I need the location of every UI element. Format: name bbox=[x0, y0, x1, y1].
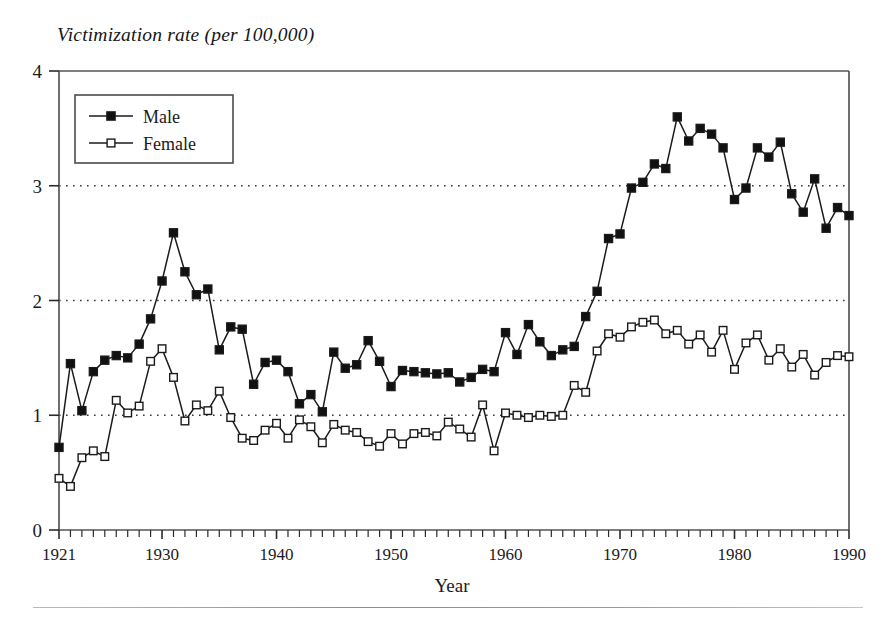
data-point-female-1951 bbox=[399, 440, 407, 448]
data-point-male-1935 bbox=[215, 346, 223, 354]
data-point-male-1978 bbox=[708, 130, 716, 138]
data-point-female-1946 bbox=[341, 426, 349, 434]
data-point-male-1987 bbox=[811, 175, 819, 183]
data-point-male-1941 bbox=[284, 368, 292, 376]
data-point-male-1921 bbox=[55, 443, 63, 451]
data-point-male-1925 bbox=[101, 356, 109, 364]
data-point-male-1961 bbox=[513, 350, 521, 358]
data-point-female-1938 bbox=[250, 437, 258, 445]
figure-container: Victimization rate (per 100,000) 1921193… bbox=[0, 0, 895, 624]
data-point-female-1949 bbox=[376, 442, 384, 450]
data-point-female-1964 bbox=[548, 413, 556, 421]
data-point-male-1957 bbox=[467, 373, 475, 381]
data-point-male-1969 bbox=[604, 234, 612, 242]
y-tick-label-2: 2 bbox=[33, 291, 43, 312]
data-point-male-1928 bbox=[135, 340, 143, 348]
data-point-male-1953 bbox=[421, 369, 429, 377]
data-point-female-1954 bbox=[433, 432, 441, 440]
legend-marker-male bbox=[107, 112, 115, 120]
data-point-male-1976 bbox=[685, 137, 693, 145]
x-axis-title: Year bbox=[434, 575, 470, 596]
data-point-female-1940 bbox=[273, 419, 281, 427]
data-point-female-1989 bbox=[834, 352, 842, 360]
y-axis-tick-labels: 01234 bbox=[33, 61, 43, 541]
data-point-female-1929 bbox=[147, 358, 155, 366]
data-point-male-1984 bbox=[776, 138, 784, 146]
data-point-male-1926 bbox=[112, 351, 120, 359]
y-axis-ticks bbox=[49, 71, 59, 530]
data-point-female-1936 bbox=[227, 414, 235, 422]
data-point-female-1980 bbox=[731, 366, 739, 374]
data-point-female-1957 bbox=[467, 433, 475, 441]
data-point-female-1950 bbox=[387, 430, 395, 438]
data-point-male-1974 bbox=[662, 164, 670, 172]
data-point-male-1986 bbox=[799, 208, 807, 216]
data-point-male-1927 bbox=[124, 354, 132, 362]
data-point-male-1923 bbox=[78, 407, 86, 415]
data-point-female-1953 bbox=[422, 429, 430, 437]
data-point-male-1956 bbox=[456, 378, 464, 386]
data-point-male-1979 bbox=[719, 144, 727, 152]
data-point-female-1958 bbox=[479, 401, 487, 409]
data-point-male-1946 bbox=[341, 364, 349, 372]
data-point-male-1934 bbox=[204, 285, 212, 293]
data-point-male-1959 bbox=[490, 368, 498, 376]
data-point-female-1945 bbox=[330, 421, 338, 429]
data-point-female-1925 bbox=[101, 453, 109, 461]
data-point-female-1948 bbox=[364, 438, 372, 446]
data-point-female-1976 bbox=[685, 340, 693, 348]
data-point-male-1944 bbox=[318, 408, 326, 416]
legend-marker-female bbox=[107, 139, 115, 147]
data-point-female-1975 bbox=[673, 327, 681, 335]
x-tick-label-1950: 1950 bbox=[374, 545, 408, 564]
data-point-female-1963 bbox=[536, 411, 544, 419]
data-point-female-1952 bbox=[410, 430, 418, 438]
data-point-male-1980 bbox=[730, 195, 738, 203]
legend: MaleFemale bbox=[75, 95, 233, 163]
series-line-male bbox=[59, 117, 849, 447]
victimization-rate-line-chart: 19211930194019501960197019801990 01234 Y… bbox=[0, 0, 895, 624]
data-point-female-1966 bbox=[570, 382, 578, 390]
data-point-male-1942 bbox=[295, 400, 303, 408]
data-point-male-1970 bbox=[616, 230, 624, 238]
data-point-female-1928 bbox=[135, 402, 143, 410]
data-point-female-1977 bbox=[696, 331, 704, 339]
x-tick-label-1940: 1940 bbox=[260, 545, 294, 564]
legend-label-male: Male bbox=[143, 107, 180, 127]
data-point-female-1931 bbox=[170, 374, 178, 382]
data-point-female-1965 bbox=[559, 411, 567, 419]
data-point-male-1933 bbox=[192, 291, 200, 299]
data-point-female-1987 bbox=[811, 371, 819, 379]
data-point-male-1952 bbox=[410, 368, 418, 376]
data-point-female-1979 bbox=[719, 327, 727, 335]
y-tick-label-1: 1 bbox=[33, 405, 43, 426]
data-point-male-1988 bbox=[822, 224, 830, 232]
data-point-male-1981 bbox=[742, 184, 750, 192]
series-female bbox=[55, 316, 853, 490]
data-point-female-1983 bbox=[765, 356, 773, 364]
data-point-male-1950 bbox=[387, 382, 395, 390]
data-point-female-1969 bbox=[605, 330, 613, 338]
data-point-male-1929 bbox=[146, 315, 154, 323]
data-point-female-1922 bbox=[67, 483, 75, 491]
data-point-female-1947 bbox=[353, 429, 361, 437]
y-tick-label-3: 3 bbox=[33, 176, 43, 197]
data-point-male-1973 bbox=[650, 160, 658, 168]
data-point-female-1924 bbox=[90, 447, 98, 455]
data-point-male-1960 bbox=[501, 329, 509, 337]
data-point-male-1924 bbox=[89, 368, 97, 376]
data-point-female-1971 bbox=[628, 323, 636, 331]
x-axis-title-group: Year bbox=[434, 575, 470, 596]
data-point-female-1956 bbox=[456, 425, 464, 433]
data-point-female-1939 bbox=[261, 426, 269, 434]
data-point-female-1985 bbox=[788, 363, 796, 371]
data-point-female-1982 bbox=[754, 331, 762, 339]
data-point-male-1948 bbox=[364, 337, 372, 345]
data-point-female-1955 bbox=[444, 418, 452, 426]
x-tick-label-1930: 1930 bbox=[145, 545, 179, 564]
data-point-female-1927 bbox=[124, 409, 132, 417]
data-point-male-1951 bbox=[398, 366, 406, 374]
data-point-male-1968 bbox=[593, 287, 601, 295]
y-tick-label-4: 4 bbox=[33, 61, 43, 82]
data-point-female-1921 bbox=[55, 475, 63, 483]
